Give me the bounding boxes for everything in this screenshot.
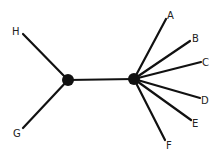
edge-n2-E: [134, 79, 191, 120]
edges: [23, 19, 201, 140]
leaf-label-f: F: [166, 140, 172, 151]
edge-n2-A: [134, 19, 166, 79]
leaf-label-c: C: [202, 57, 209, 68]
leaf-label-e: E: [192, 118, 198, 129]
edge-n2-D: [134, 79, 200, 98]
internal-node-n1: [62, 74, 74, 86]
internal-node-n2: [128, 73, 140, 85]
edge-n1-G: [23, 80, 68, 128]
edge-n2-C: [134, 62, 201, 79]
leaf-label-d: D: [201, 95, 209, 106]
leaf-label-b: B: [192, 33, 199, 44]
edge-n2-F: [134, 79, 165, 140]
edge-n1-n2: [68, 79, 134, 80]
leaf-label-g: G: [13, 128, 21, 139]
tree-diagram: HGABCDEF: [0, 0, 220, 156]
edge-n2-B: [134, 41, 190, 79]
leaf-labels: HGABCDEF: [12, 10, 209, 151]
leaf-label-h: H: [12, 26, 20, 37]
edge-n1-H: [23, 34, 68, 80]
leaf-label-a: A: [167, 10, 174, 21]
